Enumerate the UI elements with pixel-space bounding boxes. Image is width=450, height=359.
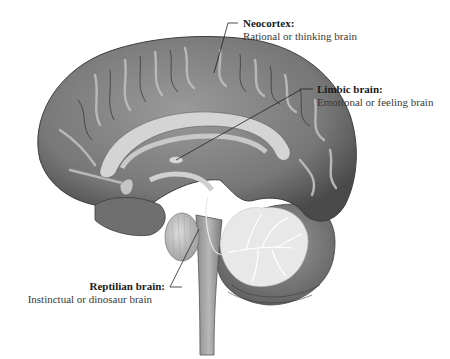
label-limbic-title: Limbic brain:: [317, 83, 433, 96]
label-reptilian-title: Reptilian brain:: [2, 280, 165, 293]
label-limbic-description: Emotional or feeling brain: [317, 96, 433, 109]
label-neocortex: Neocortex: Rational or thinking brain: [243, 17, 357, 43]
temporal-lobe: [95, 198, 165, 236]
label-limbic: Limbic brain: Emotional or feeling brain: [317, 83, 433, 109]
label-neocortex-title: Neocortex:: [243, 17, 357, 30]
label-neocortex-description: Rational or thinking brain: [243, 30, 357, 43]
pons: [165, 213, 199, 261]
label-reptilian: Reptilian brain: Instinctual or dinosaur…: [2, 280, 152, 306]
label-reptilian-description: Instinctual or dinosaur brain: [2, 293, 152, 306]
cerebrum: [38, 36, 357, 222]
